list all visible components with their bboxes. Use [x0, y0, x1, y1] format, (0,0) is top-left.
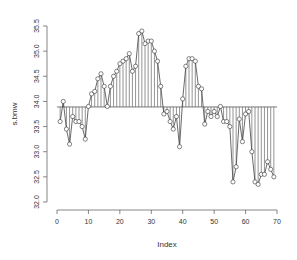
data-point [234, 165, 238, 169]
x-axis: 010203040506070 [55, 210, 281, 225]
data-point [130, 69, 134, 73]
x-tick-label: 20 [116, 218, 124, 225]
y-tick-label: 35.0 [33, 44, 40, 58]
data-point [181, 97, 185, 101]
data-point [218, 104, 222, 108]
data-point [58, 119, 62, 123]
data-point [209, 114, 213, 118]
data-point [159, 84, 163, 88]
data-point [83, 137, 87, 141]
data-point [149, 39, 153, 43]
data-point [67, 142, 71, 146]
data-point [212, 109, 216, 113]
data-point [152, 49, 156, 53]
data-point [193, 59, 197, 63]
data-point [206, 109, 210, 113]
y-tick-label: 32.5 [33, 170, 40, 184]
data-point [165, 109, 169, 113]
x-tick-label: 40 [179, 218, 187, 225]
data-point [77, 119, 81, 123]
data-point [115, 69, 119, 73]
x-tick-label: 0 [55, 218, 59, 225]
x-tick-label: 30 [147, 218, 155, 225]
data-point [228, 124, 232, 128]
data-point [199, 87, 203, 91]
y-tick-label: 33.0 [33, 145, 40, 159]
data-point [133, 64, 137, 68]
data-point [124, 57, 128, 61]
data-point [99, 72, 103, 76]
y-axis-label: s.bmw [10, 102, 19, 125]
data-point [231, 180, 235, 184]
x-tick-label: 60 [242, 218, 250, 225]
data-point [203, 122, 207, 126]
y-tick-label: 35.5 [33, 19, 40, 33]
data-point [96, 77, 100, 81]
data-point [265, 160, 269, 164]
data-point [256, 182, 260, 186]
data-point [240, 140, 244, 144]
data-point [64, 127, 68, 131]
data-point [86, 104, 90, 108]
x-tick-label: 10 [85, 218, 93, 225]
x-tick-label: 50 [210, 218, 218, 225]
y-tick-label: 34.5 [33, 69, 40, 83]
y-tick-label: 34.0 [33, 95, 40, 109]
data-point [93, 89, 97, 93]
time-series-plot: 32.032.533.033.534.034.535.035.5 0102030… [0, 0, 297, 260]
y-tick-label: 33.5 [33, 120, 40, 134]
data-point [174, 114, 178, 118]
data-point [105, 104, 109, 108]
data-point [262, 172, 266, 176]
data-point [184, 64, 188, 68]
data-point [215, 114, 219, 118]
data-point [155, 59, 159, 63]
data-point [61, 99, 65, 103]
data-point [111, 74, 115, 78]
chart-container: 32.032.533.033.534.034.535.035.5 0102030… [0, 0, 297, 260]
data-point [225, 119, 229, 123]
data-point [171, 127, 175, 131]
data-point [269, 167, 273, 171]
x-axis-label: Index [157, 240, 177, 249]
x-tick-label: 70 [273, 218, 281, 225]
y-tick-label: 32.0 [33, 195, 40, 209]
data-point [80, 124, 84, 128]
vertical-lines-to-mean [60, 31, 274, 184]
data-point [237, 117, 241, 121]
data-point [272, 175, 276, 179]
data-point [247, 109, 251, 113]
data-point [127, 52, 131, 56]
data-point [71, 114, 75, 118]
data-point [250, 150, 254, 154]
data-point [102, 84, 106, 88]
data-point [140, 29, 144, 33]
data-point [177, 145, 181, 149]
data-point [168, 119, 172, 123]
data-point [108, 84, 112, 88]
y-axis: 32.032.533.033.534.034.535.035.5 [33, 19, 47, 209]
